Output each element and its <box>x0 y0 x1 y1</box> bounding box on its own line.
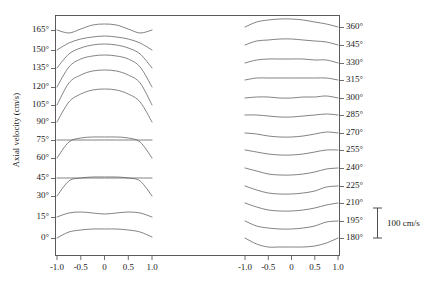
left-panel-curves <box>57 24 152 238</box>
y-axis-title: Axial velocity (cm/s) <box>11 70 21 190</box>
x-tick-label: 1.0 <box>136 263 168 272</box>
phase-label-left: 90° <box>36 117 49 126</box>
velocity-profile-curve <box>245 39 338 45</box>
scale-bar-label: 100 cm/s <box>387 219 420 228</box>
phase-label-left: 0° <box>41 233 49 242</box>
phase-label-right: 195° <box>346 216 363 225</box>
phase-label-right: 330° <box>346 58 363 67</box>
velocity-profile-curve <box>245 150 338 155</box>
velocity-profile-curve <box>245 186 338 194</box>
axis-ticks <box>51 28 344 261</box>
phase-label-right: 360° <box>346 22 363 31</box>
velocity-profile-curve <box>57 55 152 87</box>
velocity-profile-curve <box>245 78 338 80</box>
phase-label-left: 30° <box>36 191 49 200</box>
phase-label-right: 240° <box>346 163 363 172</box>
velocity-profile-curve <box>57 229 152 238</box>
phase-label-left: 165° <box>32 25 49 34</box>
phase-label-left: 150° <box>32 45 49 54</box>
phase-label-right: 300° <box>346 93 363 102</box>
velocity-profile-curve <box>57 36 152 50</box>
phase-label-right: 225° <box>346 181 363 190</box>
phase-label-right: 210° <box>346 198 363 207</box>
phase-label-left: 120° <box>32 82 49 91</box>
phase-label-left: 15° <box>36 212 49 221</box>
phase-label-left: 135° <box>32 63 49 72</box>
plot-frame <box>56 16 340 256</box>
phase-label-left: 60° <box>36 153 49 162</box>
right-panel-curves <box>245 19 338 247</box>
velocity-profile-curve <box>245 19 338 27</box>
velocity-profile-curve <box>245 114 338 117</box>
phase-label-right: 270° <box>346 128 363 137</box>
velocity-profile-curve <box>57 177 152 196</box>
scale-bar <box>373 208 382 238</box>
phase-label-left: 45° <box>36 173 49 182</box>
phase-label-right: 180° <box>346 233 363 242</box>
phase-label-right: 315° <box>346 75 363 84</box>
velocity-profile-curve <box>57 212 152 217</box>
velocity-profile-curve <box>57 24 152 33</box>
phase-label-right: 345° <box>346 40 363 49</box>
velocity-profile-curve <box>245 203 338 211</box>
velocity-profile-curve <box>245 59 338 63</box>
x-tick-label: 1.0 <box>322 263 354 272</box>
velocity-profile-curve <box>245 168 338 175</box>
phase-label-right: 285° <box>346 110 363 119</box>
figure-container: Axial velocity (cm/s) 0°15°30°45°60°75°9… <box>0 0 426 293</box>
phase-label-left: 75° <box>36 135 49 144</box>
phase-label-right: 255° <box>346 145 363 154</box>
velocity-profile-curve <box>57 89 152 122</box>
phase-label-left: 105° <box>32 100 49 109</box>
velocity-profile-curve <box>245 238 338 247</box>
velocity-profile-curve <box>245 221 338 229</box>
velocity-profile-curve <box>245 96 338 98</box>
velocity-profile-curve <box>245 132 338 137</box>
